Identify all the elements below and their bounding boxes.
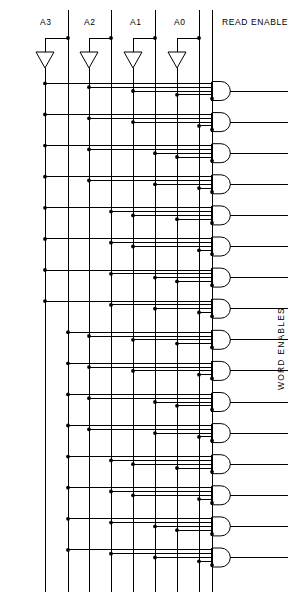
wire-layer	[0, 0, 295, 610]
decoder-schematic: A3 A2 A1 A0 READ ENABLE WORD ENABLES	[0, 0, 295, 610]
